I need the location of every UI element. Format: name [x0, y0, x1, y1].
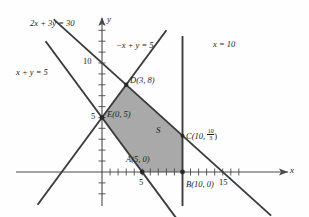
point-C-dot — [181, 134, 185, 138]
label-point-C: C(10, 103) — [186, 128, 217, 141]
point-D-dot — [124, 83, 128, 87]
label-line-x-10: x = 10 — [213, 40, 235, 49]
point-E-dot — [100, 115, 105, 120]
label-point-B: B(10, 0) — [186, 180, 214, 189]
y-tick-label-10: 10 — [83, 57, 92, 66]
label-line-x-y-5: x + y = 5 — [16, 68, 48, 77]
line-2x-3y-30 — [54, 19, 271, 215]
label-line-neg-x-y-5: −x + y = 5 — [116, 41, 154, 50]
label-line-2x-3y-30: 2x + 3y = 30 — [30, 19, 75, 28]
x-tick-label-5: 5 — [139, 178, 143, 187]
point-A-dot — [140, 170, 145, 175]
label-point-D: D(3, 8) — [130, 76, 155, 85]
x-axis-label: x — [290, 166, 294, 175]
y-axis-label: y — [107, 15, 111, 24]
label-point-C-close: ) — [214, 131, 217, 141]
label-point-C-text: C(10, — [186, 131, 207, 141]
label-region-S: S — [156, 126, 161, 135]
point-B-dot — [180, 170, 185, 175]
label-point-E: E(0, 5) — [107, 110, 131, 119]
y-tick-label-5: 5 — [91, 112, 95, 121]
label-point-A: A(5, 0) — [126, 155, 150, 164]
linear-programming-figure: 2x + 3y = 30 x + y = 5 −x + y = 5 x = 10… — [0, 0, 309, 217]
diagram-canvas — [0, 0, 309, 217]
x-tick-label-15: 15 — [219, 178, 228, 187]
